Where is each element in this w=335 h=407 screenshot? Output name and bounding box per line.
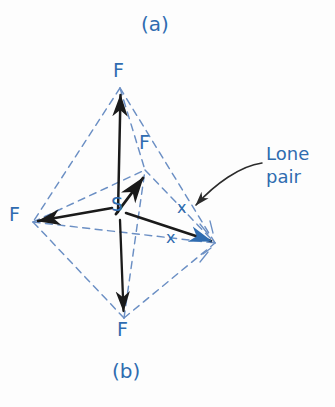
panel-label-a: (a): [141, 14, 169, 35]
atom-label-top-fluorine: F: [113, 61, 124, 81]
edge-bottom-to-left: [33, 222, 124, 318]
lonepair-annotation-arrow: [196, 163, 262, 205]
panel-label-b: (b): [112, 361, 140, 382]
sulfur-bonds: [38, 95, 143, 311]
lonepair-electron-mark-2: x: [166, 230, 175, 247]
atom-label-bottom-fluorine: F: [117, 320, 128, 340]
edge-bottom-to-equatorial-f: [124, 170, 145, 318]
edge-top-to-equatorial-f: [120, 88, 145, 170]
edge-top-to-lonepair: [120, 88, 215, 243]
lonepair-annotation-line1: Lone: [266, 143, 309, 165]
lonepair-electron-mark-1: x: [177, 200, 186, 217]
molecular-geometry-figure: [0, 0, 335, 407]
atom-label-central-sulfur: S: [111, 195, 123, 215]
bond-s-to-bottom-fluorine: [120, 220, 124, 311]
edge-bottom-to-lonepair: [124, 243, 215, 318]
edge-top-to-left: [33, 88, 120, 222]
atom-label-equatorial-fluorine: F: [139, 133, 150, 153]
atom-label-left-fluorine: F: [9, 205, 20, 225]
lonepair-annotation-line2: pair: [266, 166, 301, 188]
